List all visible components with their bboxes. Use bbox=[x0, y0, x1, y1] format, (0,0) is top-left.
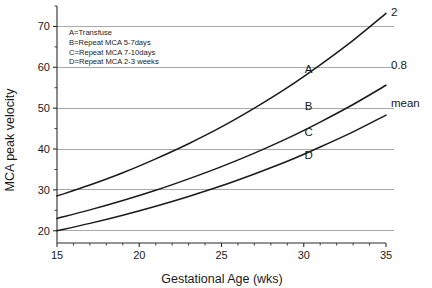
curve-0-8 bbox=[57, 85, 386, 218]
y-axis-title: MCA peak velocity bbox=[3, 88, 17, 192]
x-tick-label-25: 25 bbox=[215, 249, 227, 261]
y-tick-label-50: 50 bbox=[38, 102, 50, 114]
curve-mean bbox=[57, 115, 386, 231]
chart-figure: 2030405060701520253035 ABCD 20.8mean A=T… bbox=[0, 0, 432, 288]
edge-label-mean: mean bbox=[391, 97, 420, 109]
x-tick-label-30: 30 bbox=[298, 249, 310, 261]
y-tick-label-60: 60 bbox=[38, 61, 50, 73]
edge-label-0-8: 0.8 bbox=[391, 59, 407, 71]
edge-label-2: 2 bbox=[391, 6, 397, 18]
legend-item-c: C=Repeat MCA 7-10days bbox=[69, 48, 156, 57]
y-tick-label-20: 20 bbox=[38, 225, 50, 237]
chart-canvas: 2030405060701520253035 ABCD 20.8mean A=T… bbox=[0, 0, 432, 288]
y-tick-label-40: 40 bbox=[38, 143, 50, 155]
legend-item-d: D=Repeat MCA 2-3 weeks bbox=[69, 57, 159, 66]
x-tick-label-15: 15 bbox=[51, 249, 63, 261]
y-tick-label-70: 70 bbox=[38, 20, 50, 32]
curve-label-C: C bbox=[305, 126, 313, 138]
x-axis-title: Gestational Age (wks) bbox=[161, 272, 283, 286]
x-tick-label-20: 20 bbox=[133, 249, 145, 261]
curve-label-D: D bbox=[305, 149, 313, 161]
edge-labels: 20.8mean bbox=[391, 6, 420, 109]
legend-item-a: A=Transfuse bbox=[69, 28, 112, 37]
y-tick-label-30: 30 bbox=[38, 184, 50, 196]
curve-label-A: A bbox=[305, 63, 313, 75]
curve-label-B: B bbox=[305, 100, 313, 112]
x-tick-label-35: 35 bbox=[380, 249, 392, 261]
legend-item-b: B=Repeat MCA 5-7days bbox=[69, 38, 151, 47]
curve-labels: ABCD bbox=[305, 63, 313, 161]
legend-annotations: A=TransfuseB=Repeat MCA 5-7daysC=Repeat … bbox=[69, 28, 159, 66]
